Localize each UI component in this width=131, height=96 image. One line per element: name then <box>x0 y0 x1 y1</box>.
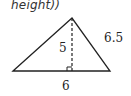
base-label: 6 <box>62 80 70 92</box>
side-label: 6.5 <box>104 32 123 44</box>
height-label: 5 <box>59 42 67 54</box>
